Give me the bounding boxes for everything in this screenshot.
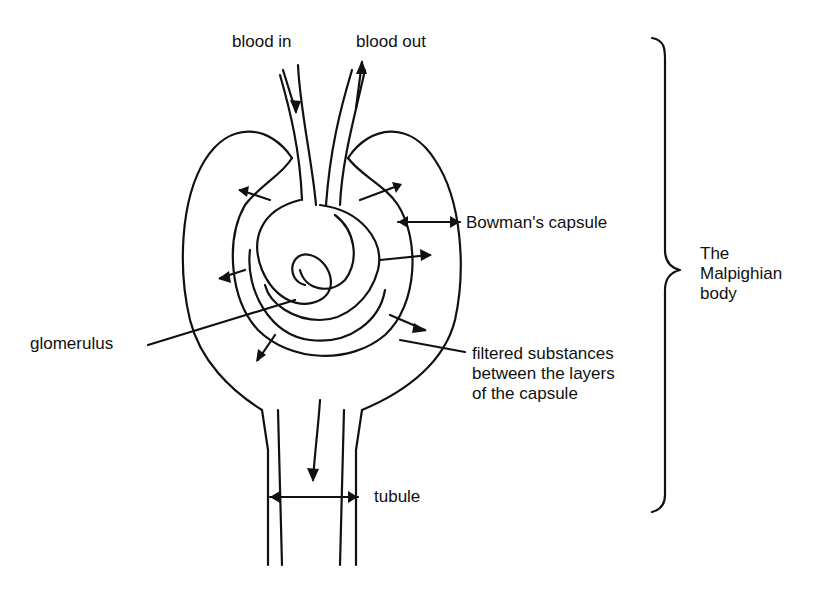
label-malpighian-1: The [700,244,729,264]
label-filtered-3: of the capsule [472,384,578,404]
label-tubule: tubule [374,487,420,507]
malpighian-bracket [652,38,680,512]
label-glomerulus: glomerulus [30,334,113,354]
label-filtered-1: filtered substances [472,344,614,364]
capsule-inner-wall [233,158,413,356]
label-bowmans-capsule: Bowman's capsule [466,213,607,233]
label-malpighian-3: body [700,284,737,304]
glomerulus-loops [249,200,385,341]
label-filtered-2: between the layers [472,364,615,384]
label-blood-out: blood out [356,32,426,52]
label-malpighian-2: Malpighian [700,264,782,284]
efferent-vessel [326,70,352,205]
label-blood-in: blood in [232,32,292,52]
